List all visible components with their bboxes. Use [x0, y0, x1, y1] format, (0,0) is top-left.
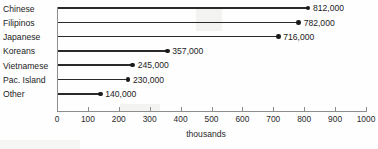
bar-value-label: 230,000: [133, 75, 164, 85]
category-label: Japanese: [3, 32, 55, 42]
bar-row: [58, 50, 167, 52]
bar-value-label: 245,000: [138, 60, 169, 70]
category-label: Filipinos: [3, 18, 55, 28]
category-label: Koreans: [3, 46, 55, 56]
bar-row: [58, 22, 299, 24]
bar-endpoint-marker: [306, 6, 311, 11]
x-axis-title-label: thousands: [186, 129, 226, 139]
bar-row: [58, 7, 308, 9]
bar-value-label: 357,000: [172, 46, 203, 56]
x-tick-label: 600: [235, 114, 249, 124]
x-tick-mark: [335, 107, 336, 112]
x-tick-mark: [119, 107, 120, 112]
x-tick-mark: [57, 107, 58, 112]
x-tick-label: 700: [266, 114, 280, 124]
x-tick-label: 500: [205, 114, 219, 124]
bar-row: [58, 79, 128, 81]
category-label: Vietnamese: [3, 61, 55, 71]
category-label: Chinese: [3, 4, 55, 14]
bar-endpoint-marker: [296, 20, 301, 25]
x-tick-label: 800: [297, 114, 311, 124]
bar-row: [58, 64, 133, 66]
bar-endpoint-marker: [98, 92, 103, 97]
category-label: Pac. Island: [3, 75, 55, 85]
x-tick-mark: [88, 107, 89, 112]
bar-endpoint-marker: [126, 77, 131, 82]
x-tick-label: 1000: [357, 114, 376, 124]
x-tick-label: 900: [328, 114, 342, 124]
bar-value-label: 716,000: [283, 32, 314, 42]
x-tick-mark: [150, 107, 151, 112]
scan-artifact: [196, 9, 222, 31]
x-tick-label: 0: [55, 114, 60, 124]
scan-artifact: [0, 140, 80, 149]
x-tick-mark: [242, 107, 243, 112]
x-tick-mark: [212, 107, 213, 112]
x-tick-mark: [304, 107, 305, 112]
bar-row: [58, 93, 100, 95]
x-tick-label: 100: [81, 114, 95, 124]
bar-row: [58, 36, 278, 38]
x-tick-label: 400: [174, 114, 188, 124]
bar-endpoint-marker: [276, 34, 281, 39]
x-tick-label: 200: [112, 114, 126, 124]
x-tick-label: 300: [143, 114, 157, 124]
bar-chart: Number of people of Asian ChineseFilipin…: [0, 0, 378, 149]
x-axis-title: thousands: [0, 129, 378, 139]
x-tick-mark: [273, 107, 274, 112]
bar-value-label: 140,000: [105, 89, 136, 99]
bar-endpoint-marker: [165, 49, 170, 54]
category-label: Other: [3, 89, 55, 99]
bar-value-label: 782,000: [304, 18, 335, 28]
x-tick-mark: [366, 107, 367, 112]
x-tick-mark: [181, 107, 182, 112]
bar-value-label: 812,000: [313, 3, 344, 13]
bar-endpoint-marker: [130, 63, 135, 68]
